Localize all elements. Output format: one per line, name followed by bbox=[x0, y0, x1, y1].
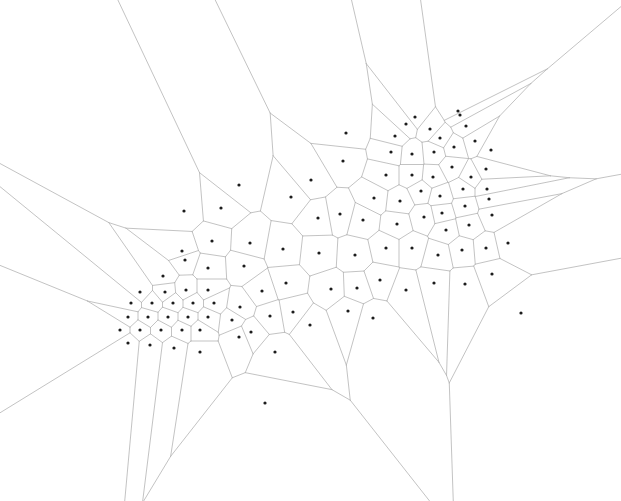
voronoi-figure bbox=[0, 0, 621, 501]
voronoi-plot-canvas bbox=[0, 0, 621, 501]
